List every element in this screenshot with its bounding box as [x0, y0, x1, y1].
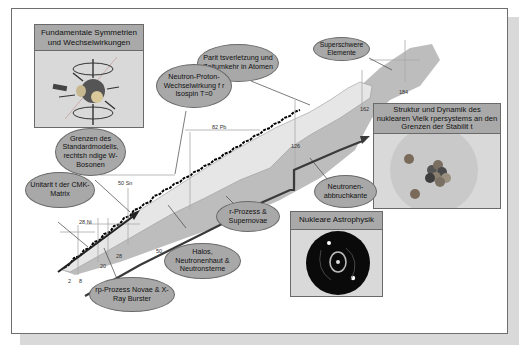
supernova-icon [291, 230, 382, 296]
structure-title: Struktur und Dynamik des nuklearen Vielk… [374, 104, 500, 134]
structure-illustration [374, 134, 500, 208]
symmetries-title: Fundamentale Symmetrien und Wechselwirku… [35, 25, 143, 51]
label-50-sn: 50 Sn [118, 180, 132, 186]
bubble-halos: Halos, Neutronenhaut & Neutronsterne [164, 243, 241, 279]
bubble-standard-model-limits: Grenzen des Standardmodells, rechtsh ndi… [55, 128, 126, 176]
bubble-np-interaction: Neutron-Proton-Wechselwirkung f r Isospi… [156, 64, 232, 108]
label-n126: 126 [291, 143, 300, 149]
label-n184: 184 [399, 89, 408, 95]
structure-box: Struktur und Dynamik des nuklearen Vielk… [373, 103, 501, 209]
label-82-pb: 82 Pb [212, 124, 226, 130]
bubble-rp-process: rp-Prozess Novae & X-Ray Burster [89, 277, 175, 312]
spinning-nucleus-icon [35, 51, 143, 127]
atomic-nucleus-icon [374, 134, 500, 208]
astro-illustration [291, 230, 382, 296]
label-n28: 28 [116, 253, 122, 259]
bubble-r-process: r-Prozess & Supernovae [216, 201, 280, 232]
symmetries-illustration [35, 51, 143, 127]
label-n2: 2 [68, 278, 71, 284]
astro-box: Nukleare Astrophysik [290, 211, 383, 297]
astro-title: Nukleare Astrophysik [291, 212, 382, 230]
label-28-ni: 28 Ni [79, 219, 92, 225]
label-n8: 8 [79, 278, 82, 284]
bubble-neutron-dripline: Neutronen-abbruchkante [314, 175, 377, 208]
label-n20: 20 [100, 263, 106, 269]
bubble-superheavy-elements: Superschwere Elemente [313, 37, 370, 61]
label-n162: 162 [360, 106, 369, 112]
symmetries-box: Fundamentale Symmetrien und Wechselwirku… [34, 24, 144, 128]
bubble-ckm-unitarity: Unitarit t der CMK-Matrix [25, 172, 95, 208]
label-n50: 50 [156, 248, 162, 254]
